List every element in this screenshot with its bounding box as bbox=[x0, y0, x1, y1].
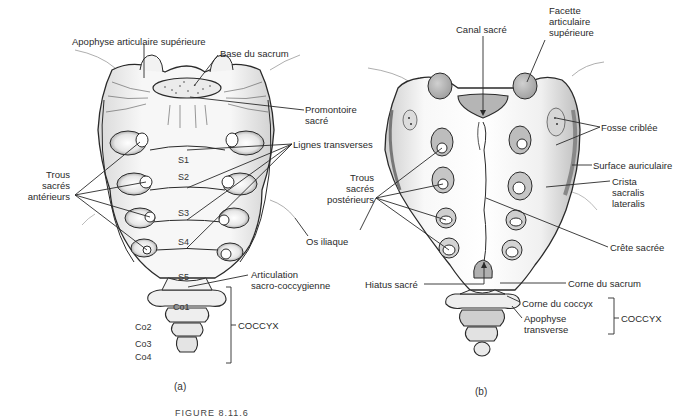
label-hiatus-sacre: Hiatus sacré bbox=[365, 279, 418, 290]
segment-s1: S1 bbox=[178, 155, 189, 165]
caption-panel-b: (b) bbox=[475, 386, 487, 397]
label-promontoire-sacre: Promontoire sacré bbox=[305, 104, 357, 126]
label-articulation-sacro-coccygienne: Articulation sacro-coccygienne bbox=[251, 269, 330, 291]
label-trous-sacres-anterieurs: Trous sacrés antérieurs bbox=[18, 169, 70, 202]
label-facette-articulaire-superieure: Facette articulaire supérieure bbox=[549, 5, 594, 38]
segment-s3: S3 bbox=[178, 208, 189, 218]
label-fosse-criblee: Fosse criblée bbox=[601, 122, 658, 133]
label-line: supérieure bbox=[549, 27, 594, 38]
label-line: Facette bbox=[549, 5, 594, 16]
label-line: sacré bbox=[305, 115, 357, 126]
label-base-du-sacrum: Base du sacrum bbox=[220, 48, 289, 59]
label-line: Promontoire bbox=[305, 104, 357, 115]
segment-co1: Co1 bbox=[173, 302, 190, 312]
label-trous-sacres-posterieurs: Trous sacrés postérieurs bbox=[312, 172, 374, 205]
segment-co4: Co4 bbox=[135, 352, 152, 362]
label-crista-sacralis-lateralis: Crista sacralis lateralis bbox=[612, 176, 645, 209]
label-line: Crista bbox=[612, 176, 645, 187]
label-line: Trous bbox=[18, 169, 70, 180]
label-line: sacro-coccygienne bbox=[251, 280, 330, 291]
label-corne-du-sacrum: Corne du sacrum bbox=[568, 278, 641, 289]
segment-co3: Co3 bbox=[135, 339, 152, 349]
label-lignes-transverses: Lignes transverses bbox=[293, 139, 373, 150]
label-os-iliaque: Os iliaque bbox=[306, 236, 348, 247]
label-line: lateralis bbox=[612, 198, 645, 209]
label-line: sacralis bbox=[612, 187, 645, 198]
label-apophyse-articulaire-superieure: Apophyse articulaire supérieure bbox=[72, 36, 206, 47]
label-line: transverse bbox=[524, 324, 568, 335]
label-line: sacrés bbox=[312, 183, 374, 194]
label-line: Apophyse bbox=[524, 313, 568, 324]
figure-caption: FIGURE 8.11.6 bbox=[175, 408, 249, 418]
label-corne-du-coccyx: Corne du coccyx bbox=[522, 298, 593, 309]
label-line: Articulation bbox=[251, 269, 330, 280]
label-coccyx-a: COCCYX bbox=[238, 320, 279, 331]
label-coccyx-b: COCCYX bbox=[621, 313, 662, 324]
label-line: sacrés bbox=[18, 180, 70, 191]
label-surface-auriculaire: Surface auriculaire bbox=[593, 160, 672, 171]
segment-s5: S5 bbox=[178, 272, 189, 282]
label-apophyse-transverse: Apophyse transverse bbox=[524, 313, 568, 335]
segment-s2: S2 bbox=[178, 172, 189, 182]
label-line: Trous bbox=[312, 172, 374, 183]
label-crete-sacree: Crête sacrée bbox=[610, 242, 664, 253]
caption-panel-a: (a) bbox=[174, 381, 186, 392]
label-line: antérieurs bbox=[18, 191, 70, 202]
label-canal-sacre: Canal sacré bbox=[456, 24, 507, 35]
label-line: articulaire bbox=[549, 16, 594, 27]
label-line: postérieurs bbox=[312, 194, 374, 205]
segment-s4: S4 bbox=[178, 237, 189, 247]
segment-co2: Co2 bbox=[135, 322, 152, 332]
